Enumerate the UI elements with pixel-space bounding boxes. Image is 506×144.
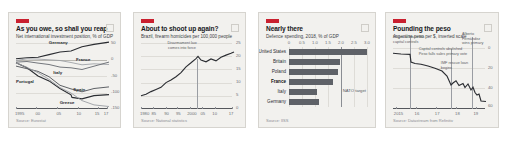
x-tick: 19 <box>473 111 478 116</box>
x-tick: 10 <box>212 111 217 116</box>
panel-source: Source: National statistics <box>141 118 187 123</box>
plot-area-peso: Mauricio Macri lifts capital controls Ca… <box>393 43 485 109</box>
annotation-capital-controls: Capital controls abolished Peso falls sa… <box>419 47 467 56</box>
x-tick: 0.5 <box>299 40 305 45</box>
expand-icon[interactable] <box>231 24 239 32</box>
y-tick: 0 <box>488 45 490 50</box>
series-label-portugal: Portugal <box>16 79 34 84</box>
chart-panel-investment-position[interactable]: As you owe, so shall you reap Net intern… <box>8 12 121 128</box>
bar-united-states[interactable] <box>289 49 367 55</box>
x-tick: 05 <box>56 111 61 116</box>
panel-subtitle: Net international investment position, %… <box>16 34 113 39</box>
series-label-italy: Italy <box>53 70 62 75</box>
x-tick: 2000 <box>187 111 196 116</box>
y-tick: 0 <box>111 56 113 61</box>
bar-label-france: France <box>258 79 289 84</box>
expand-icon[interactable] <box>361 24 369 32</box>
plot-area-investment: Germany France Italy Portugal Spain Gree… <box>16 43 107 109</box>
economist-red-tab-icon <box>16 19 29 23</box>
economist-red-tab-icon <box>266 19 279 23</box>
expand-icon[interactable] <box>106 24 114 32</box>
nato-target-label: NATO target <box>343 88 366 93</box>
y-tick: 20 <box>236 53 241 58</box>
bar-label-poland: Poland <box>258 69 289 74</box>
y-tick: 10 <box>236 79 241 84</box>
plot-area-defence: 0 0.5 1.0 1.5 2.0 2.5 3.0 United States … <box>289 47 367 107</box>
chart-panel-argentine-peso[interactable]: Pounding the peso Argentine peso per $, … <box>385 12 499 128</box>
bar-label-united-states: United States <box>258 49 289 54</box>
panel-title: As you owe, so shall you reap <box>16 25 107 32</box>
panel-source: Source: Datastream from Refinitiv <box>393 118 453 123</box>
panel-title: Pounding the peso <box>393 25 451 32</box>
x-tick: 2015 <box>394 111 403 116</box>
x-tick: 1.0 <box>312 40 318 45</box>
x-tick: 2.0 <box>338 40 344 45</box>
y-tick: -50 <box>111 73 117 78</box>
series-line-homicides <box>141 43 234 109</box>
series-label-germany: Germany <box>49 40 68 45</box>
y-tick: 60 <box>488 103 493 108</box>
bar-label-germany: Germany <box>258 99 289 104</box>
y-tick: 5 <box>236 92 238 97</box>
y-tick: -100 <box>111 89 119 94</box>
panel-source: Source: Eurostat <box>16 118 46 123</box>
expand-icon[interactable] <box>484 24 492 32</box>
bar-poland[interactable] <box>289 69 338 75</box>
bar-germany[interactable] <box>289 99 319 105</box>
panel-source: Source: IISS <box>266 118 288 123</box>
series-label-spain: Spain <box>73 87 85 92</box>
y-tick: -150 <box>111 105 119 110</box>
panel-subtitle: Defence spending, 2018, % of GDP <box>266 34 339 39</box>
x-tick: 95 <box>176 111 181 116</box>
economist-red-tab-icon <box>393 19 406 23</box>
x-tick: 0 <box>288 40 290 45</box>
bar-france[interactable] <box>289 79 333 85</box>
annotation-imf-loan: IMF rescue loan begins <box>441 61 468 70</box>
chart-annotation: Disarmament law comes into force <box>167 41 196 50</box>
y-tick: 0 <box>236 105 238 110</box>
x-tick: 17 <box>435 111 440 116</box>
x-tick: 10 <box>76 111 81 116</box>
x-tick: 2.5 <box>351 40 357 45</box>
panel-title: About to shoot up again? <box>141 25 218 32</box>
bar-britain[interactable] <box>289 59 340 65</box>
panel-title: Nearly there <box>266 25 303 32</box>
panel-subtitle: Brazil, firearm homicides per 100,000 pe… <box>141 34 232 39</box>
series-label-greece: Greece <box>60 100 75 105</box>
annotation-macri: Mauricio Macri lifts capital controls <box>393 35 424 44</box>
x-tick: 17 <box>104 111 109 116</box>
x-tick: 15 <box>95 111 100 116</box>
x-tick: 05 <box>201 111 206 116</box>
x-tick: 1995 <box>15 111 24 116</box>
y-tick: 40 <box>488 85 493 90</box>
chart-sheet: As you owe, so shall you reap Net intern… <box>0 0 506 144</box>
y-tick: 25 <box>236 40 241 45</box>
x-tick: 16 <box>415 111 420 116</box>
x-tick: 1980 <box>140 111 149 116</box>
plot-area-homicides: Disarmament law comes into force 1980 85… <box>141 43 232 109</box>
x-tick: 17 <box>229 111 234 116</box>
economist-red-tab-icon <box>141 19 154 23</box>
bar-italy[interactable] <box>289 89 317 95</box>
x-tick: 3.0 <box>364 40 370 45</box>
chart-panel-defence-spending[interactable]: Nearly there Defence spending, 2018, % o… <box>258 12 376 128</box>
x-tick: 00 <box>35 111 40 116</box>
x-tick: 90 <box>164 111 169 116</box>
bar-label-britain: Britain <box>258 59 289 64</box>
y-tick: 50 <box>111 40 116 45</box>
annotation-fernandez: Alberto Fernández wins primary <box>462 32 483 46</box>
x-tick: 1.5 <box>325 40 331 45</box>
y-tick: 20 <box>488 65 493 70</box>
chart-panel-brazil-homicides[interactable]: About to shoot up again? Brazil, firearm… <box>133 12 246 128</box>
series-label-france: France <box>76 57 90 62</box>
x-tick: 85 <box>151 111 156 116</box>
y-tick: 15 <box>236 66 241 71</box>
bar-label-italy: Italy <box>258 89 289 94</box>
x-tick: 18 <box>455 111 460 116</box>
